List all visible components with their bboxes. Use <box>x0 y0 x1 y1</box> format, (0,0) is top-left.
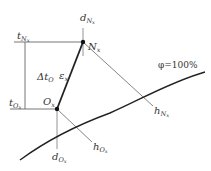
label-epsilon: εx <box>59 70 68 83</box>
point-o-marker <box>55 107 59 111</box>
label-d-n: dNx <box>80 12 95 25</box>
label-saturation-curve: φ=100% <box>158 60 198 70</box>
psychrometric-diagram: tNx tOx dNx dOx hNx hOx Nx Ox ΔtO εx φ=1… <box>0 0 211 171</box>
label-delta-t: ΔtO <box>36 71 54 84</box>
label-point-o: Ox <box>43 96 55 109</box>
label-t-n: tNx <box>17 30 30 43</box>
diagram-canvas: tNx tOx dNx dOx hNx hOx Nx Ox ΔtO εx φ=1… <box>0 0 211 171</box>
label-h-o: hOx <box>93 141 108 154</box>
label-h-n: hNx <box>154 105 169 118</box>
label-d-o: dOx <box>52 151 67 164</box>
saturation-curve <box>20 72 205 160</box>
label-t-o: tOx <box>9 97 21 110</box>
enthalpy-o-line <box>57 109 92 142</box>
point-n-marker <box>81 40 85 44</box>
